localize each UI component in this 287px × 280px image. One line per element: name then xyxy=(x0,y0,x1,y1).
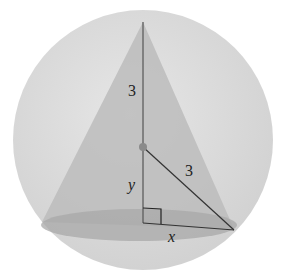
center-dot xyxy=(139,143,147,151)
cone-in-sphere-diagram: 3 3 y x xyxy=(0,0,287,280)
cone-base xyxy=(41,209,237,241)
label-y: y xyxy=(126,176,136,194)
label-radius: 3 xyxy=(185,162,193,179)
label-x: x xyxy=(167,228,175,245)
label-upper-height: 3 xyxy=(128,82,136,99)
